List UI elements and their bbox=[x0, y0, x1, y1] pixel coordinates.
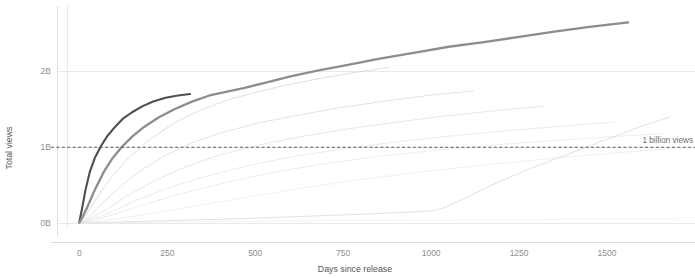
series-line-highlighted-video-dark bbox=[79, 94, 190, 222]
x-tick-label: 1000 bbox=[422, 248, 441, 258]
y-tick-label: 2B bbox=[41, 66, 52, 76]
x-tick-label: 250 bbox=[160, 248, 174, 258]
y-tick-label: 1B bbox=[41, 142, 52, 152]
series-line-background-video-2 bbox=[79, 91, 473, 224]
series-line-background-video-slow-riser bbox=[79, 117, 670, 224]
x-tick-label: 0 bbox=[77, 248, 82, 258]
series-line-background-video-4 bbox=[79, 122, 614, 223]
series-line-background-video-flat-low bbox=[79, 219, 677, 224]
x-tick-label: 500 bbox=[248, 248, 262, 258]
views-growth-chart: 0B1B2B02505007501000125015001 billion vi… bbox=[0, 0, 695, 278]
x-tick-label: 1250 bbox=[510, 248, 529, 258]
y-tick-label: 0B bbox=[41, 218, 52, 228]
x-tick-label: 750 bbox=[336, 248, 350, 258]
series-line-highlighted-video-gray bbox=[79, 22, 628, 222]
series-line-background-video-6 bbox=[79, 148, 677, 223]
annotation-label-one-billion-threshold: 1 billion views bbox=[642, 136, 693, 145]
x-tick-label: 1500 bbox=[598, 248, 617, 258]
chart-canvas: 0B1B2B02505007501000125015001 billion vi… bbox=[0, 0, 695, 278]
